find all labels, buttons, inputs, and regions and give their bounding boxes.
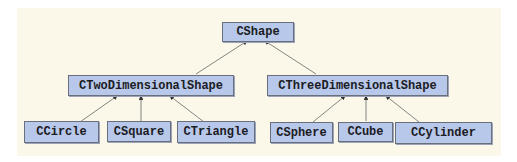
node-csquare: CSquare (107, 121, 171, 142)
node-label: CTwoDimensionalShape (79, 79, 223, 93)
edge-ctriangle-to-ctwo (170, 96, 204, 122)
edge-csphere-to-cthree (313, 96, 345, 122)
node-label: CShape (236, 25, 279, 39)
node-label: CSquare (114, 125, 164, 139)
node-ccylinder: CCylinder (395, 122, 492, 144)
node-cshape: CShape (222, 22, 294, 42)
node-label: CCircle (36, 125, 86, 139)
node-label: CCube (347, 125, 383, 139)
node-cthreedimensionalshape: CThreeDimensionalShape (267, 75, 448, 96)
edge-ccircle-to-ctwo (80, 96, 117, 122)
node-label: CCylinder (411, 126, 476, 140)
edge-cthree-to-cshape (265, 41, 316, 74)
node-ccircle: CCircle (24, 121, 99, 143)
edge-ccylinder-to-cthree (386, 96, 419, 122)
node-csphere: CSphere (270, 122, 333, 143)
node-label: CThreeDimensionalShape (278, 79, 436, 93)
node-label: CTriangle (184, 125, 249, 139)
node-ctwodimensionalshape: CTwoDimensionalShape (68, 75, 234, 96)
edge-ctwo-to-cshape (196, 41, 247, 74)
node-ctriangle: CTriangle (177, 121, 255, 143)
node-label: CSphere (276, 126, 326, 140)
node-ccube: CCube (338, 122, 393, 142)
